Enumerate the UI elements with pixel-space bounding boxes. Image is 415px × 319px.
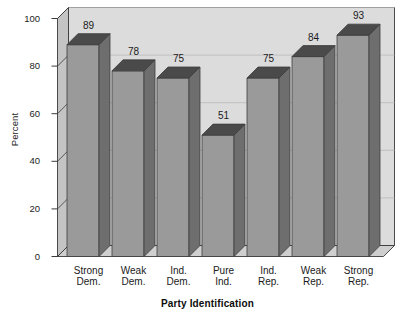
bar-chart: Percent 020406080100 89StrongDem.78WeakD… — [0, 0, 415, 319]
bar-value-label: 93 — [339, 11, 379, 21]
x-axis-tick-label-line: Rep. — [331, 276, 387, 288]
bar-value-label: 89 — [69, 21, 109, 31]
bar-value-label: 51 — [204, 111, 244, 121]
bar — [202, 124, 245, 256]
bar — [292, 46, 335, 257]
bar-value-label: 78 — [114, 47, 154, 57]
bar — [247, 67, 290, 257]
x-axis-title: Party Identification — [0, 298, 415, 309]
bar-value-label: 75 — [249, 54, 289, 64]
bar — [337, 24, 380, 256]
x-axis-tick-label-line: Strong — [331, 265, 387, 277]
bar-value-label: 75 — [159, 54, 199, 64]
x-axis-tick-label: StrongRep. — [331, 265, 387, 288]
bar-value-label: 84 — [294, 33, 334, 43]
bar — [112, 60, 155, 257]
bar — [67, 34, 110, 257]
bar — [157, 67, 200, 257]
